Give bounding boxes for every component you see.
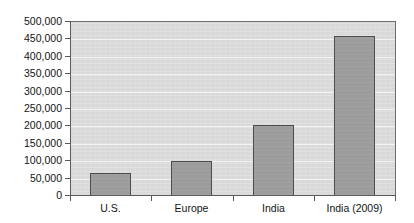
y-tick-mark xyxy=(65,91,70,92)
x-tick-label: India (2009) xyxy=(314,203,395,214)
y-tick-label: 400,000 xyxy=(0,51,62,62)
y-tick-mark xyxy=(65,38,70,39)
bar-texture-overlay xyxy=(335,37,374,195)
bar-chart: 050,000100,000150,000200,000250,000300,0… xyxy=(0,0,414,223)
x-tick-mark xyxy=(151,196,152,201)
x-tick-mark xyxy=(395,196,396,201)
x-tick-mark xyxy=(314,196,315,201)
y-axis-line xyxy=(70,21,71,196)
bar-texture-overlay xyxy=(254,126,293,195)
bar-texture-overlay xyxy=(172,162,211,195)
y-tick-label: 500,000 xyxy=(0,16,62,27)
y-tick-mark xyxy=(65,21,70,22)
bar-india xyxy=(253,125,294,196)
y-tick-mark xyxy=(65,178,70,179)
x-tick-label: U.S. xyxy=(70,203,151,214)
y-tick-label: 250,000 xyxy=(0,103,62,114)
x-tick-label: Europe xyxy=(151,203,232,214)
y-tick-label: 0 xyxy=(0,190,62,201)
x-tick-mark xyxy=(70,196,71,201)
bar-u-s xyxy=(90,173,131,196)
y-tick-label: 450,000 xyxy=(0,33,62,44)
bar-texture-overlay xyxy=(91,174,130,195)
plot-area xyxy=(70,21,396,196)
bar-india-2009 xyxy=(334,36,375,196)
y-tick-mark xyxy=(65,160,70,161)
y-tick-label: 300,000 xyxy=(0,86,62,97)
y-tick-mark xyxy=(65,56,70,57)
y-tick-label: 50,000 xyxy=(0,173,62,184)
x-tick-label: India xyxy=(233,203,314,214)
x-tick-mark xyxy=(233,196,234,201)
y-tick-label: 350,000 xyxy=(0,68,62,79)
y-tick-mark xyxy=(65,73,70,74)
y-tick-label: 200,000 xyxy=(0,120,62,131)
y-tick-label: 100,000 xyxy=(0,155,62,166)
y-tick-mark xyxy=(65,108,70,109)
y-tick-mark xyxy=(65,125,70,126)
y-tick-mark xyxy=(65,143,70,144)
y-tick-label: 150,000 xyxy=(0,138,62,149)
bar-europe xyxy=(171,161,212,196)
